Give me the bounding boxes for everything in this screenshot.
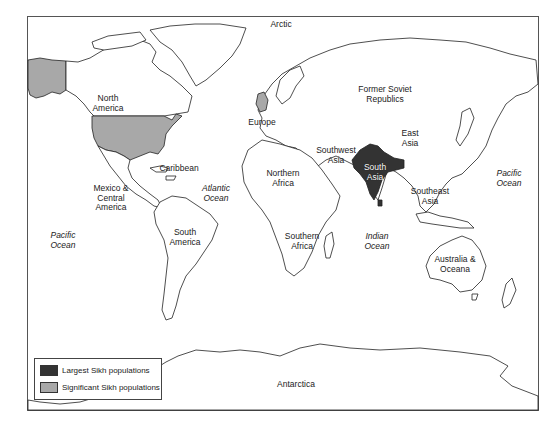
- legend-item-significant: Significant Sikh populations: [40, 381, 160, 393]
- madagascar-region: [324, 232, 334, 258]
- label-southwest-asia: Southwest Asia: [316, 146, 356, 165]
- map-legend: Largest Sikh populations Significant Sik…: [34, 358, 162, 400]
- new-zealand-region: [502, 278, 516, 308]
- legend-label-significant: Significant Sikh populations: [62, 383, 160, 392]
- label-australia-oceana: Australia & Oceana: [434, 255, 475, 274]
- label-southern-africa: Southern Africa: [285, 232, 320, 251]
- label-south-asia: South Asia: [364, 163, 386, 182]
- southeast-asia-islands: [416, 212, 474, 228]
- label-arctic: Arctic: [270, 20, 291, 30]
- label-northern-africa: Northern Africa: [266, 169, 299, 188]
- label-south-america: South America: [169, 228, 200, 247]
- significant-swatch: [40, 382, 58, 393]
- south-america-region: [154, 196, 218, 320]
- label-former-soviet-republics: Former Soviet Republics: [358, 85, 411, 104]
- alaska-region: [28, 58, 66, 98]
- label-pacific-ocean-east: Pacific Ocean: [496, 169, 521, 188]
- label-north-america: North America: [92, 94, 123, 113]
- label-pacific-ocean-west: Pacific Ocean: [50, 231, 75, 250]
- label-antarctica: Antarctica: [277, 380, 315, 390]
- label-southeast-asia: Southeast Asia: [411, 187, 449, 206]
- label-caribbean: Caribbean: [159, 164, 198, 174]
- legend-label-largest: Largest Sikh populations: [62, 366, 150, 375]
- label-europe: Europe: [248, 118, 275, 128]
- legend-item-largest: Largest Sikh populations: [40, 364, 150, 376]
- label-indian-ocean: Indian Ocean: [364, 232, 389, 251]
- sri-lanka-region: [378, 200, 382, 206]
- label-atlantic-ocean: Atlantic Ocean: [202, 184, 230, 203]
- largest-swatch: [40, 365, 58, 376]
- tasmania-region: [472, 294, 478, 300]
- label-east-asia: East Asia: [401, 129, 418, 148]
- label-mexico-central-america: Mexico & Central America: [94, 184, 129, 213]
